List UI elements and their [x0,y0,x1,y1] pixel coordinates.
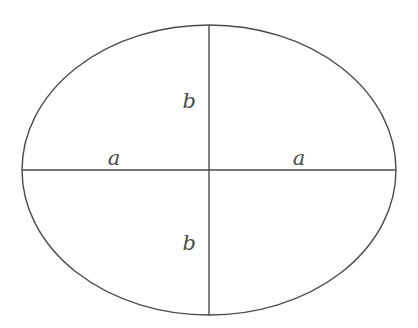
ellipse-diagram-svg: b b a a [0,0,418,328]
label-a-right: a [293,146,306,170]
label-b-bottom: b [183,231,196,255]
label-a-left: a [108,146,121,170]
ellipse-diagram-canvas: b b a a [0,0,418,328]
label-b-top: b [183,89,196,113]
